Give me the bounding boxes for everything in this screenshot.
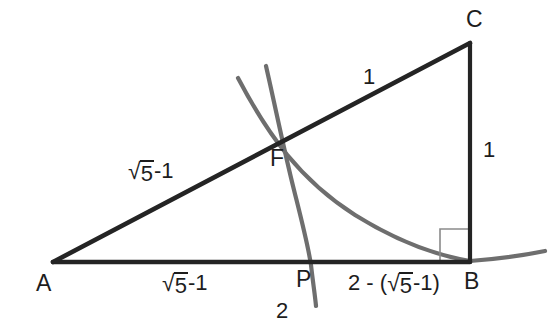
vertex-label-p: P xyxy=(296,268,311,291)
vertex-label-c: C xyxy=(466,8,483,31)
segment-ac xyxy=(53,43,470,262)
radical-suffix: -1 xyxy=(154,158,174,183)
radical-sign-icon: √ xyxy=(387,273,400,295)
vertex-label-a: A xyxy=(36,272,51,295)
radical-suffix: -1 xyxy=(188,270,208,295)
vertex-label-b: B xyxy=(464,270,479,293)
radicand-value: 5 xyxy=(140,160,154,185)
length-label-bc: 1 xyxy=(483,139,495,161)
radical-expression: √ 5 xyxy=(387,272,413,297)
radical-expression: √ 5 xyxy=(162,272,188,297)
radical-sign-icon: √ xyxy=(128,161,141,183)
radical-suffix: -1) xyxy=(413,270,440,295)
vertex-label-f: F xyxy=(270,147,284,170)
radicand-value: 5 xyxy=(174,272,188,297)
length-label-af: √ 5 -1 xyxy=(128,160,173,185)
expression-prefix: 2 - ( xyxy=(348,270,387,295)
radical-sign-icon: √ xyxy=(162,273,175,295)
radical-expression: √ 5 xyxy=(128,160,154,185)
radicand-value: 5 xyxy=(399,272,413,297)
length-label-pb: 2 - ( √ 5 -1) xyxy=(348,272,440,297)
length-label-arc-radius: 2 xyxy=(276,300,288,322)
length-label-fc: 1 xyxy=(363,66,375,88)
geometry-figure: A B C F P √ 5 -1 1 1 √ 5 -1 2 - ( √ 5 -1… xyxy=(0,0,553,332)
length-label-ap: √ 5 -1 xyxy=(162,272,207,297)
